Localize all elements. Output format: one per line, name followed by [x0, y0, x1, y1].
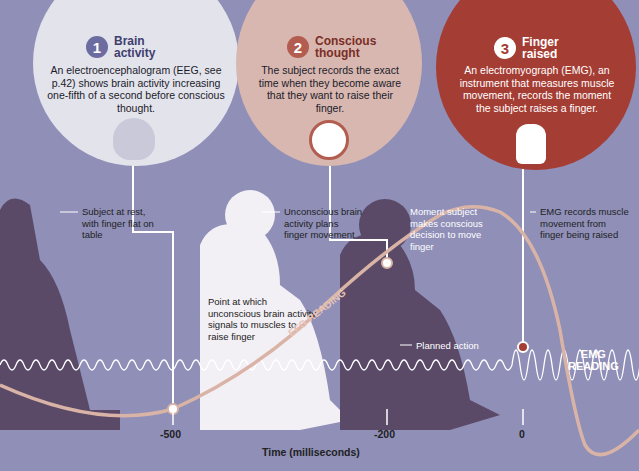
step-2-number: 2 — [287, 36, 309, 58]
label-planned-action: Planned action — [416, 340, 496, 352]
tick-zero: 0 — [519, 428, 525, 440]
step-1-title-line2: activity — [114, 47, 155, 59]
step-1-heading: 1 Brain activity — [86, 35, 155, 59]
step-2-description: The subject records the exact time when … — [258, 64, 402, 114]
raised-finger-icon — [516, 124, 546, 164]
libet-experiment-diagram: 1 Brain activity An electroencephalogram… — [0, 0, 639, 471]
tick-minus-200: -200 — [374, 428, 395, 440]
label-subject-at-rest: Subject at rest, with finger flat on tab… — [82, 206, 162, 241]
clock-head-icon — [309, 120, 349, 160]
step-1-number: 1 — [86, 36, 108, 58]
step-2-title-line2: thought — [315, 47, 376, 59]
step-3-description: An electromyograph (EMG), an instrument … — [458, 64, 616, 114]
step-1-description: An electroencephalogram (EEG, see p.42) … — [45, 64, 227, 114]
step-3-number: 3 — [494, 37, 516, 59]
step-3-title-line2: raised — [522, 48, 559, 60]
emg-reading-label: EMG READING — [568, 348, 619, 372]
emg-marker — [518, 342, 528, 352]
label-unconscious-activity: Unconscious brain activity plans finger … — [284, 206, 364, 241]
label-emg-records: EMG records muscle movement from finger … — [540, 206, 630, 241]
axis-title: Time (milliseconds) — [262, 446, 360, 458]
label-conscious-decision: Moment subject makes conscious decision … — [410, 206, 500, 252]
conscious-decision-marker — [382, 258, 392, 268]
step-3-heading: 3 Finger raised — [494, 36, 559, 60]
step-2-heading: 2 Conscious thought — [287, 35, 376, 59]
brain-eeg-icon — [113, 118, 155, 160]
tick-minus-500: -500 — [160, 428, 181, 440]
